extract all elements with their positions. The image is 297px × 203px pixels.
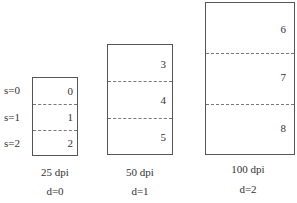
tile-index: 4 (161, 94, 167, 106)
tile-box-25dpi: 0 1 2 (32, 77, 78, 156)
tile-box-50dpi: 3 4 5 (107, 44, 173, 155)
divider (206, 53, 294, 54)
tile-index: 6 (281, 23, 287, 35)
depth-label-1: d=1 (100, 185, 180, 197)
depth-label-2: d=2 (208, 183, 288, 195)
scale-label-2: s=2 (4, 137, 20, 149)
tile-index: 2 (68, 137, 74, 149)
divider (33, 104, 77, 105)
dpi-label-0: 25 dpi (15, 166, 95, 178)
tile-box-100dpi: 6 7 8 (205, 2, 295, 155)
tile-index: 7 (281, 71, 287, 83)
tile-index: 0 (68, 85, 74, 97)
depth-label-0: d=0 (15, 185, 95, 197)
tile-index: 5 (161, 131, 167, 143)
divider (108, 118, 172, 119)
divider (33, 130, 77, 131)
divider (206, 104, 294, 105)
dpi-label-2: 100 dpi (208, 163, 288, 175)
tile-index: 8 (281, 122, 287, 134)
dpi-label-1: 50 dpi (100, 166, 180, 178)
tile-index: 3 (161, 58, 167, 70)
divider (108, 81, 172, 82)
scale-label-1: s=1 (4, 111, 20, 123)
tile-index: 1 (68, 111, 74, 123)
scale-label-0: s=0 (4, 84, 20, 96)
